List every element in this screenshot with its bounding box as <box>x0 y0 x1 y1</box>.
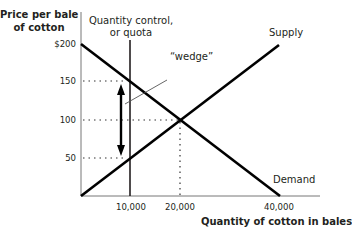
x-axis-label: Quantity of cotton in bales <box>201 217 352 227</box>
quota-label-line2: or quota <box>86 27 176 39</box>
quota-label: Quantity control, or quota <box>86 15 176 39</box>
y-tick-200: $200 <box>54 39 76 49</box>
supply-label: Supply <box>269 28 303 38</box>
y-tick-150: 150 <box>60 76 76 86</box>
quota-label-line1: Quantity control, <box>86 15 176 27</box>
x-tick-40000: 40,000 <box>264 202 294 212</box>
demand-label: Demand <box>273 175 315 185</box>
y-tick-50: 50 <box>65 153 76 163</box>
y-tick-100: 100 <box>60 115 76 125</box>
arrow-up-head <box>117 84 125 95</box>
x-tick-10000: 10,000 <box>116 202 146 212</box>
x-tick-20000: 20,000 <box>165 202 195 212</box>
y-axis-label-line1: Price per bale <box>0 8 78 21</box>
y-axis-label: Price per bale of cotton <box>0 8 78 34</box>
arrow-down-head <box>117 145 125 156</box>
y-axis-label-line2: of cotton <box>0 21 78 34</box>
wedge-label: “wedge” <box>170 52 213 62</box>
